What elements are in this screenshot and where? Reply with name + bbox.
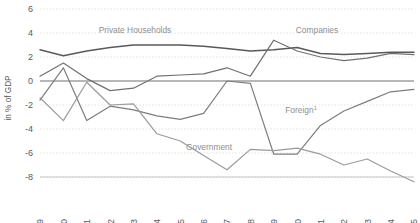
x-tick-label: 2010 bbox=[293, 219, 303, 223]
y-tick-label: -2 bbox=[25, 100, 33, 110]
y-tick-label: 4 bbox=[28, 28, 33, 38]
x-tick-label: 2002 bbox=[106, 219, 116, 223]
x-tick-label: 2009 bbox=[269, 219, 279, 223]
x-tick-label: 2012 bbox=[339, 219, 349, 223]
x-tick-label: 2013 bbox=[363, 219, 373, 223]
y-tick-label: 2 bbox=[28, 52, 33, 62]
y-axis-title: in % of GDP bbox=[4, 75, 13, 121]
government-label: Government bbox=[186, 142, 233, 152]
y-tick-label: -8 bbox=[25, 172, 33, 182]
chart-container: 6420-2-4-6-8 in % of GDP 199920002001200… bbox=[0, 0, 420, 223]
x-tick-label: 2014 bbox=[386, 219, 396, 223]
x-tick-label: 2008 bbox=[246, 219, 256, 223]
y-tick-label: 6 bbox=[28, 4, 33, 14]
x-tick-label: 2015 bbox=[409, 219, 419, 223]
y-tick-label: 0 bbox=[28, 76, 33, 86]
x-tick-label: 2004 bbox=[152, 219, 162, 223]
x-tick-label: 2001 bbox=[82, 219, 92, 223]
x-tick-label: 2005 bbox=[176, 219, 186, 223]
y-tick-label: -4 bbox=[25, 124, 33, 134]
y-tick-label: -6 bbox=[25, 148, 33, 158]
companies-label: Companies bbox=[296, 25, 338, 35]
foreign-label: Foreign1 bbox=[285, 105, 317, 115]
x-tick-label: 2003 bbox=[129, 219, 139, 223]
x-tick-label: 1999 bbox=[35, 219, 45, 223]
x-tick-label: 2006 bbox=[199, 219, 209, 223]
foreign-label-superscript: 1 bbox=[314, 105, 317, 111]
chart-background bbox=[0, 0, 420, 223]
x-tick-label: 2007 bbox=[222, 219, 232, 223]
x-tick-label: 2011 bbox=[316, 219, 326, 223]
x-tick-label: 2000 bbox=[59, 219, 69, 223]
sectoral-balances-line-chart: 6420-2-4-6-8 in % of GDP 199920002001200… bbox=[0, 0, 420, 223]
private-households-label: Private Households bbox=[99, 25, 172, 35]
